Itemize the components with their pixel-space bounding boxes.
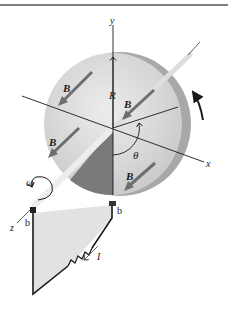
field-label-lower-left: B: [48, 136, 56, 148]
omega-label: ω: [26, 176, 34, 188]
brush-top-label: b: [25, 217, 30, 228]
brush-top-contact: [30, 207, 36, 213]
theta-label: θ: [133, 149, 139, 161]
radius-label: R: [108, 89, 116, 101]
y-axis-label: y: [109, 15, 115, 26]
rotation-arrow: [193, 92, 203, 120]
z-axis-label: z: [9, 222, 14, 233]
field-label-lower-right: B: [125, 170, 133, 182]
faraday-disk-diagram: y x z R θ ω I b b B B B B: [0, 0, 228, 310]
current-label: I: [96, 251, 101, 262]
field-label-upper-left: B: [62, 82, 70, 94]
field-label-upper-right: B: [123, 98, 131, 110]
circuit-panel: [33, 205, 112, 294]
brush-bottom-contact: [109, 201, 116, 206]
x-axis-label: x: [205, 158, 211, 169]
brush-bottom-label: b: [117, 205, 122, 216]
axle-tip-back: [188, 42, 200, 55]
